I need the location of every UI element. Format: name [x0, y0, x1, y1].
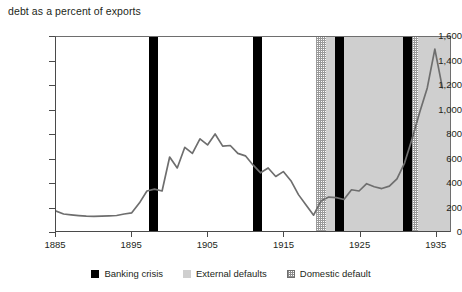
x-axis-tick-label: 1915 [257, 240, 309, 250]
x-axis-tick-mark [436, 232, 437, 237]
legend-item-banking-crisis: Banking crisis [91, 268, 163, 279]
x-axis-tick-label: 1895 [105, 240, 157, 250]
y-axis-tick-mark [49, 36, 55, 37]
y-axis-tick-label: 1,600 [416, 31, 462, 41]
legend-label-domestic-default: Domestic default [300, 268, 371, 279]
y-axis-tick-mark [49, 61, 55, 62]
chart-legend: Banking crisis External defaults Domesti… [0, 268, 462, 279]
x-axis-tick-mark [207, 232, 208, 237]
y-axis-tick-mark [49, 85, 55, 86]
y-axis-tick-label: 200 [416, 203, 462, 213]
plot-area [55, 36, 451, 232]
x-axis-tick-label: 1905 [181, 240, 233, 250]
chart-title: debt as a percent of exports [8, 5, 141, 17]
black-square-icon [91, 270, 99, 278]
x-axis-tick-mark [55, 232, 56, 237]
x-axis-tick-mark [131, 232, 132, 237]
y-axis-tick-label: 600 [416, 154, 462, 164]
y-axis-tick-mark [49, 159, 55, 160]
x-axis-tick-label: 1885 [29, 240, 81, 250]
y-axis-tick-mark [49, 110, 55, 111]
y-axis-tick-label: 1,200 [416, 80, 462, 90]
legend-label-banking-crisis: Banking crisis [104, 268, 163, 279]
y-axis-tick-label: 0 [416, 227, 462, 237]
y-axis-tick-mark [49, 134, 55, 135]
y-axis-tick-mark [49, 183, 55, 184]
legend-label-external-defaults: External defaults [196, 268, 267, 279]
chart-container: debt as a percent of exports Banking cri… [0, 0, 462, 292]
y-axis-tick-mark [49, 208, 55, 209]
x-axis-tick-label: 1935 [410, 240, 462, 250]
x-axis-tick-mark [283, 232, 284, 237]
x-axis-tick-label: 1925 [334, 240, 386, 250]
legend-item-domestic-default: Domestic default [287, 268, 371, 279]
y-axis-tick-label: 400 [416, 178, 462, 188]
y-axis-tick-label: 1,000 [416, 105, 462, 115]
y-axis-tick-label: 800 [416, 129, 462, 139]
legend-item-external-defaults: External defaults [183, 268, 267, 279]
debt-line-series [56, 37, 450, 231]
gray-square-icon [183, 270, 191, 278]
hatched-square-icon [287, 270, 295, 278]
y-axis-tick-label: 1,400 [416, 56, 462, 66]
x-axis-tick-mark [360, 232, 361, 237]
